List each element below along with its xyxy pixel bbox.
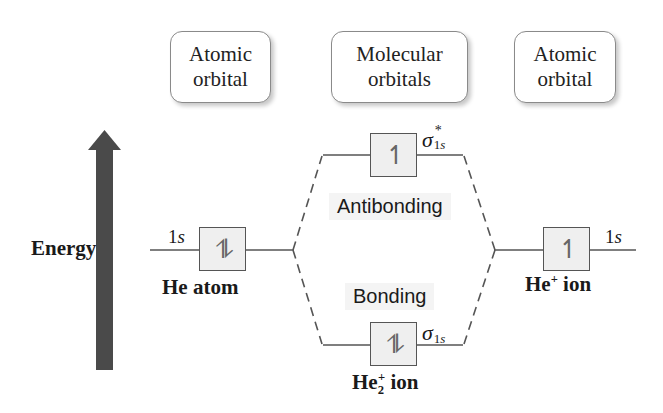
right-1s-label: 1s bbox=[605, 226, 622, 248]
electron-pair-icon: ⥮ bbox=[386, 329, 401, 360]
left-1s-label: 1s bbox=[168, 226, 185, 248]
sigma-star-1s-label: σ*1s bbox=[422, 127, 451, 153]
single-electron-icon: ↿ bbox=[385, 140, 403, 170]
energy-label: Energy bbox=[31, 236, 96, 261]
correlation-lines bbox=[293, 156, 495, 344]
sigma-1s-label: σ1s bbox=[422, 320, 445, 346]
he-plus-ion-label: He+ ion bbox=[525, 272, 591, 297]
antibonding-label: Antibonding bbox=[329, 193, 451, 220]
he-atom-label: He atom bbox=[162, 275, 238, 300]
antibonding-orbital-box: ↿ bbox=[370, 133, 417, 177]
bonding-orbital-box: ⥮ bbox=[370, 322, 417, 366]
he-ion-orbital-box: ↿ bbox=[543, 227, 590, 271]
bonding-label: Bonding bbox=[345, 283, 434, 310]
he2-plus-ion-label: He2+ ion bbox=[352, 370, 418, 398]
single-electron-icon: ↿ bbox=[558, 234, 576, 264]
electron-pair-icon: ⥮ bbox=[215, 234, 230, 265]
he-atom-orbital-box: ⥮ bbox=[199, 227, 246, 271]
